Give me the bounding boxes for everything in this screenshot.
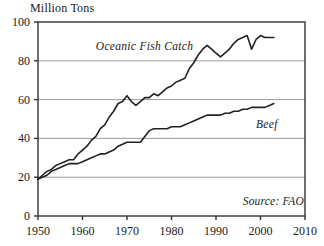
x-tick-label-1960: 1960 [61, 225, 105, 237]
x-tick-label-2010: 2010 [283, 225, 324, 237]
x-tick-label-1970: 1970 [105, 225, 149, 237]
series-lines [38, 36, 274, 180]
x-tick-label-1950: 1950 [16, 225, 60, 237]
y-tick-label-20: 20 [0, 171, 30, 183]
y-tick-label-100: 100 [0, 16, 30, 28]
x-tick-label-2000: 2000 [239, 225, 283, 237]
y-tick-label-0: 0 [0, 210, 30, 222]
series-label-beef: Beef [256, 118, 278, 130]
y-tick-label-80: 80 [0, 55, 30, 67]
fish-catch-beef-line-chart: Million Tons 020406080100 19501960197019… [0, 0, 324, 246]
y-tick-label-40: 40 [0, 132, 30, 144]
series-line-beef [38, 103, 274, 179]
x-tick-label-1980: 1980 [150, 225, 194, 237]
series-line-oceanic-fish-catch [38, 36, 274, 180]
y-tick-label-60: 60 [0, 94, 30, 106]
source-note: Source: FAO [243, 195, 304, 207]
x-tick-label-1990: 1990 [194, 225, 238, 237]
series-label-oceanic-fish-catch: Oceanic Fish Catch [96, 40, 193, 52]
